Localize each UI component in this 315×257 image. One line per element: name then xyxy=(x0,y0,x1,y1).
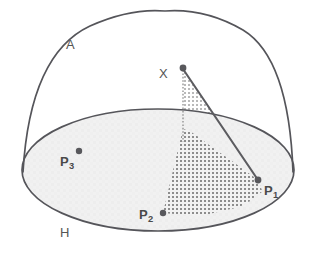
point-P3-dot[interactable] xyxy=(76,148,82,154)
geometry-figure: A H X P1 P2 P3 xyxy=(0,0,315,257)
label-dome-A: A xyxy=(66,38,75,51)
label-point-P1-subscript: 1 xyxy=(273,190,278,200)
label-point-P3: P3 xyxy=(60,155,74,168)
label-point-P1: P1 xyxy=(264,184,278,197)
label-point-P2-subscript: 2 xyxy=(148,214,153,224)
label-apex-X: X xyxy=(159,67,168,80)
point-X-dot[interactable] xyxy=(180,65,187,72)
label-point-P2: P2 xyxy=(139,208,153,221)
label-point-P3-subscript: 3 xyxy=(69,161,74,171)
figure-canvas xyxy=(0,0,315,257)
label-point-P2-base: P xyxy=(139,207,148,222)
label-base-plane-H: H xyxy=(60,226,69,239)
label-point-P3-base: P xyxy=(60,154,69,169)
point-P2-dot[interactable] xyxy=(160,210,166,216)
point-P1-dot[interactable] xyxy=(255,177,262,184)
label-point-P1-base: P xyxy=(264,183,273,198)
